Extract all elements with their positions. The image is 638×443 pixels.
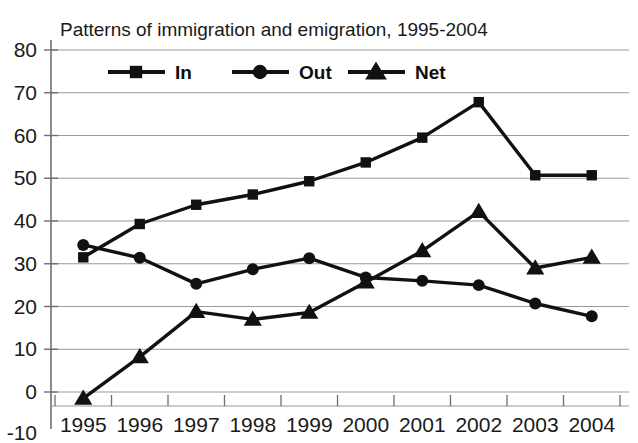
data-point-out-1996 [134,252,146,264]
x-axis [51,395,629,406]
data-point-out-2002 [473,279,485,291]
y-tick-label-10: 10 [14,337,37,360]
data-point-in-1997 [191,200,201,210]
data-point-net-2002 [470,203,488,218]
legend-marker-in-icon [130,66,142,78]
data-series [74,97,601,405]
y-tick-label-70: 70 [14,81,37,104]
legend-label-in: In [175,62,192,83]
data-point-out-1999 [303,252,315,264]
data-point-out-2004 [586,310,598,322]
legend-label-net: Net [415,62,446,83]
data-point-out-2003 [529,298,541,310]
y-tick-label-60: 60 [14,124,37,147]
data-point-in-1999 [304,176,314,186]
y-tick-label--10: -10 [7,421,37,443]
x-tick-label-1997: 1997 [173,413,220,436]
data-point-in-2000 [361,157,371,167]
data-point-out-1998 [247,263,259,275]
data-point-in-1996 [135,219,145,229]
legend-label-out: Out [299,62,332,83]
y-tick-label-20: 20 [14,295,37,318]
data-point-net-2004 [583,248,601,263]
y-tick-labels: 80706050403020100-10 [7,38,37,443]
x-tick-label-2001: 2001 [399,413,446,436]
x-tick-label-2002: 2002 [455,413,502,436]
data-point-in-1995 [78,252,88,262]
legend-marker-out-icon [253,65,267,79]
series-in [78,97,597,263]
series-line-net [83,212,592,399]
x-tick-label-1995: 1995 [60,413,107,436]
chart-legend: InOutNet [108,61,446,83]
data-point-in-2001 [417,132,427,142]
x-tick-label-2000: 2000 [342,413,389,436]
data-point-in-2002 [474,97,484,107]
page-title: Patterns of immigration and emigration, … [60,19,488,40]
data-point-in-1998 [248,189,258,199]
x-tick-label-2004: 2004 [568,413,615,436]
y-tick-label-30: 30 [14,252,37,275]
y-tick-label-80: 80 [14,38,37,61]
series-line-in [83,102,592,257]
x-tick-label-1998: 1998 [229,413,276,436]
x-tick-label-2003: 2003 [512,413,559,436]
x-tick-label-1999: 1999 [286,413,333,436]
x-tick-label-1996: 1996 [116,413,163,436]
chart-container: 80706050403020100-10 1995199619971998199… [0,0,638,443]
data-point-in-2003 [530,170,540,180]
data-point-net-1999 [300,304,318,319]
series-line-out [83,245,592,316]
data-point-net-1997 [187,303,205,318]
y-axis [44,40,58,429]
data-point-in-2004 [587,170,597,180]
y-tick-label-50: 50 [14,166,37,189]
x-tick-labels: 1995199619971998199920002001200220032004 [60,413,616,436]
y-tick-label-40: 40 [14,209,37,232]
series-net [74,203,601,405]
data-point-net-2001 [413,242,431,257]
data-point-out-2001 [416,275,428,287]
data-point-out-1995 [77,239,89,251]
line-chart: 80706050403020100-10 1995199619971998199… [0,0,638,443]
y-tick-label-0: 0 [25,380,37,403]
data-point-out-1997 [190,278,202,290]
